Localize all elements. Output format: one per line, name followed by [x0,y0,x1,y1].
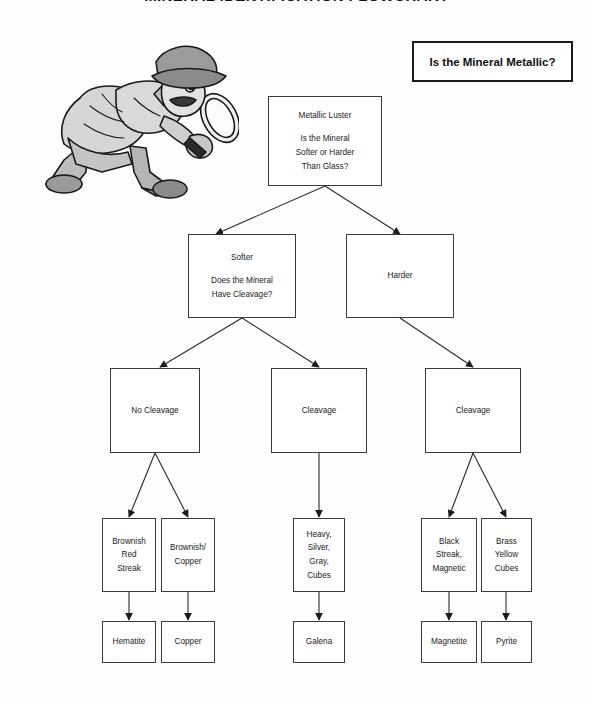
node-brownish-copper: Brownish/ Copper [161,518,215,592]
node-softer: Softer Does the Mineral Have Cleavage? [188,234,296,318]
edge-softer-to-no-cleavage [160,318,242,367]
node-brass-yellow-line2: Yellow [484,548,529,562]
header-question-box: Is the Mineral Metallic? [412,41,573,82]
node-brownish-red-line3: Streak [105,562,153,576]
edge-softer-to-cleavage-mid [242,318,319,367]
node-cleavage-middle: Cleavage [271,368,367,453]
node-cleavage-right: Cleavage [425,368,521,453]
node-brass-yellow-cubes: Brass Yellow Cubes [481,518,532,592]
detective-illustration [24,32,239,200]
node-black-streak-line3: Magnetic [424,562,474,576]
node-brownish-red-line1: Brownish [105,535,153,549]
node-magnetite: Magnetite [421,621,477,663]
node-softer-line3: Have Cleavage? [191,288,293,302]
node-heavy-silver-line3: Gray, [296,555,342,569]
node-root-spacer [271,122,379,132]
node-brownish-copper-line2: Copper [164,555,212,569]
node-root-line1: Metallic Luster [271,109,379,123]
node-heavy-silver-line1: Heavy, [296,528,342,542]
page-title: MINERAL IDENTIFICATION FLOWCHART [0,0,593,5]
node-black-streak-line2: Streak, [424,548,474,562]
node-pyrite: Pyrite [481,621,532,663]
node-pyrite-label: Pyrite [484,635,529,649]
node-cleavage-middle-line1: Cleavage [274,404,364,418]
edge-no-cleavage-to-brownish-red [129,453,155,517]
node-no-cleavage-line1: No Cleavage [113,404,197,418]
node-hematite: Hematite [102,621,156,663]
node-no-cleavage: No Cleavage [110,368,200,453]
node-copper: Copper [161,621,215,663]
edge-root-to-harder [325,186,400,234]
node-root-line2: Is the Mineral [271,132,379,146]
edge-cleavage-right-to-black-streak [449,453,473,517]
flowchart-page: MINERAL IDENTIFICATION FLOWCHART [0,0,593,704]
node-brownish-copper-line1: Brownish/ [164,541,212,555]
node-harder: Harder [346,234,454,318]
node-galena-label: Galena [296,635,342,649]
node-black-streak-magnetic: Black Streak, Magnetic [421,518,477,592]
node-softer-spacer [191,264,293,274]
edge-cleavage-right-to-brass-yellow [473,453,506,517]
node-black-streak-line1: Black [424,535,474,549]
node-softer-line2: Does the Mineral [191,274,293,288]
edge-no-cleavage-to-brownish-copper [155,453,188,517]
node-softer-line1: Softer [191,251,293,265]
node-brownish-red-streak: Brownish Red Streak [102,518,156,592]
node-root-line3: Softer or Harder [271,146,379,160]
node-root-line4: Than Glass? [271,160,379,174]
edge-harder-to-cleavage-right [400,318,473,367]
node-copper-label: Copper [164,635,212,649]
node-heavy-silver-line2: Silver, [296,541,342,555]
node-heavy-silver-line4: Cubes [296,569,342,583]
node-hematite-label: Hematite [105,635,153,649]
node-galena: Galena [293,621,345,663]
node-magnetite-label: Magnetite [424,635,474,649]
node-cleavage-right-line1: Cleavage [428,404,518,418]
node-brass-yellow-line3: Cubes [484,562,529,576]
node-brownish-red-line2: Red [105,548,153,562]
node-harder-line1: Harder [349,269,451,283]
node-brass-yellow-line1: Brass [484,535,529,549]
node-root-metallic-luster: Metallic Luster Is the Mineral Softer or… [268,96,382,186]
node-heavy-silver-gray-cubes: Heavy, Silver, Gray, Cubes [293,518,345,592]
